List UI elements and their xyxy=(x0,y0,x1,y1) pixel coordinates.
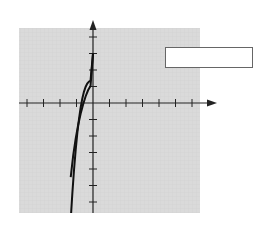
equation-label xyxy=(165,47,253,68)
x-axis-arrow-icon xyxy=(207,100,217,107)
y-axis-arrow-icon xyxy=(90,20,97,30)
function-graph xyxy=(0,0,269,225)
